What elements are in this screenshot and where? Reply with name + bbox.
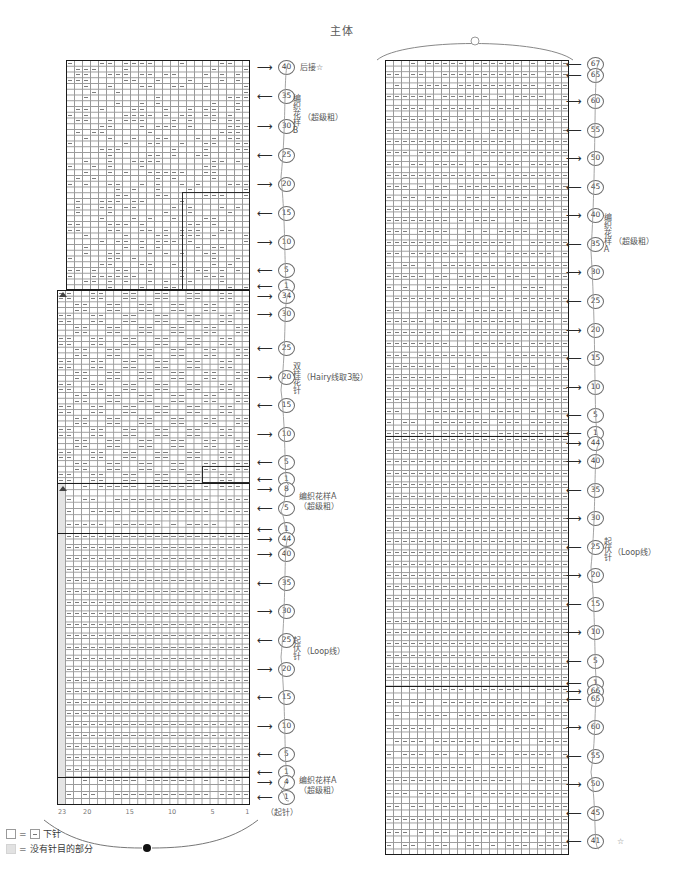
row-arrow-right-icon: ⟶ (563, 96, 585, 107)
label-line2: （超级粗） (299, 502, 339, 512)
right-section-label-patternA: 编织花样A (601, 213, 612, 254)
row-arrow-left-icon: ⟵ (563, 656, 585, 667)
left-section-sidelabel-garter: （Loop线） (302, 646, 345, 657)
row-arrow-left-icon: ⟵ (563, 353, 585, 364)
left-section-sidelabel-patternB: （超级粗） (303, 112, 343, 123)
section-brace (588, 694, 602, 850)
right-bottom-star-marker: ☆ (617, 837, 624, 846)
left-section-label-patternA-mid: 编织花样A （超级粗） (299, 492, 339, 512)
row-arrow-left-icon: ⟵ (563, 599, 585, 610)
row-arrow-right-icon: ⟶ (563, 382, 585, 393)
row-arrow-right-icon: ⟶ (563, 570, 585, 581)
label-line1: 编织花样A (299, 776, 339, 786)
row-arrow-right-icon: ⟶ (563, 210, 585, 221)
section-brace (278, 62, 292, 292)
legend-swatch-grey (6, 844, 16, 854)
legend-eq-2: = (19, 844, 27, 854)
left-section-label-patternA-bottom: 编织花样A （超级粗） (299, 776, 339, 796)
right-row-markers: ⟵67⟵65⟶60⟵55⟶50⟵45⟶40⟵35⟶30⟵25⟶20⟵15⟶10⟵… (0, 0, 684, 879)
legend-row-nostitch: = 没有针目的部分 (6, 841, 93, 856)
legend-eq-1: = (19, 829, 27, 839)
row-arrow-right-icon: ⟶ (563, 722, 585, 733)
section-brace (588, 444, 602, 690)
legend-label-knit: 下针 (43, 827, 61, 840)
legend-swatch-empty (6, 829, 16, 839)
row-arrow-right-icon: ⟶ (563, 513, 585, 524)
row-arrow-right-icon: ⟶ (563, 779, 585, 790)
row-arrow-left-icon: ⟵ (563, 296, 585, 307)
row-arrow-left-icon: ⟵ (563, 410, 585, 421)
row-arrow-right-icon: ⟶ (563, 456, 585, 467)
row-arrow-left-icon: ⟵ (563, 239, 585, 250)
right-section-sidelabel-patternA: （超级粗） (614, 236, 654, 247)
label-line1: 编织花样A (299, 492, 339, 502)
row-arrow-left-icon: ⟵ (563, 694, 585, 705)
left-bottom-note: （起针） (266, 806, 298, 817)
right-section-label-garter: 起伏针 (601, 537, 612, 561)
right-section-sidelabel-garter: （Loop线） (613, 547, 656, 558)
row-arrow-left-icon: ⟵ (563, 485, 585, 496)
row-arrow-right-icon: ⟶ (563, 267, 585, 278)
legend-label-nostitch: 没有针目的部分 (30, 842, 93, 855)
row-arrow-left-icon: ⟵ (563, 125, 585, 136)
label-line2: （超级粗） (299, 786, 339, 796)
left-section-sidelabel-doubleseed: （Hairy线取3股） (302, 372, 368, 383)
section-brace (278, 488, 292, 534)
row-arrow-left-icon: ⟵ (563, 542, 585, 553)
legend: = 下针 = 没有针目的部分 (6, 826, 93, 856)
row-arrow-right-icon: ⟶ (563, 153, 585, 164)
row-arrow-right-icon: ⟶ (563, 325, 585, 336)
section-brace (588, 62, 602, 440)
row-arrow-right-icon: ⟶ (563, 438, 585, 449)
row-arrow-left-icon: ⟵ (563, 70, 585, 81)
section-brace (278, 780, 292, 802)
row-arrow-left-icon: ⟵ (563, 808, 585, 819)
row-arrow-left-icon: ⟵ (563, 59, 585, 70)
row-arrow-left-icon: ⟵ (563, 182, 585, 193)
row-arrow-left-icon: ⟵ (563, 751, 585, 762)
left-top-note: 后接☆ (300, 62, 323, 73)
section-brace (278, 294, 292, 486)
row-arrow-right-icon: ⟶ (563, 627, 585, 638)
section-brace (278, 536, 292, 778)
legend-swatch-stitch-symbol (30, 829, 40, 839)
row-arrow-left-icon: ⟵ (563, 836, 585, 847)
legend-row-knit: = 下针 (6, 826, 93, 841)
